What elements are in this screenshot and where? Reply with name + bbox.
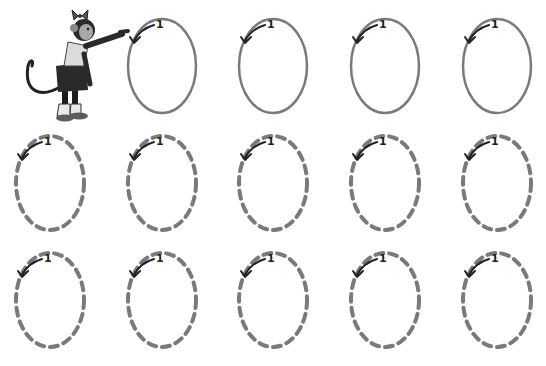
monkey-girl-pointing-icon: [22, 4, 134, 122]
worksheet: 1 1 1 1 1 1 1: [0, 0, 546, 366]
trace-oval-solid: 1: [345, 11, 425, 121]
trace-oval-dashed: 1: [457, 245, 537, 355]
trace-oval-dashed: 1: [10, 245, 90, 355]
stroke-number-label: 1: [156, 253, 164, 264]
trace-oval-dashed: 1: [122, 128, 202, 238]
stroke-number-label: 1: [379, 136, 387, 147]
trace-oval-solid: 1: [233, 11, 313, 121]
stroke-number-label: 1: [379, 19, 387, 30]
stroke-number-label: 1: [491, 136, 499, 147]
trace-oval-dashed: 1: [10, 128, 90, 238]
trace-oval-dashed: 1: [345, 245, 425, 355]
trace-oval-dashed: 1: [233, 245, 313, 355]
trace-oval-solid: 1: [457, 11, 537, 121]
trace-oval-dashed: 1: [122, 245, 202, 355]
stroke-number-label: 1: [491, 19, 499, 30]
stroke-number-label: 1: [267, 19, 275, 30]
trace-oval-dashed: 1: [233, 128, 313, 238]
stroke-number-label: 1: [267, 136, 275, 147]
stroke-number-label: 1: [156, 136, 164, 147]
stroke-number-label: 1: [44, 136, 52, 147]
stroke-number-label: 1: [267, 253, 275, 264]
trace-oval-dashed: 1: [345, 128, 425, 238]
stroke-number-label: 1: [44, 253, 52, 264]
stroke-number-label: 1: [491, 253, 499, 264]
stroke-number-label: 1: [379, 253, 387, 264]
trace-oval-dashed: 1: [457, 128, 537, 238]
trace-oval-solid: 1: [122, 11, 202, 121]
stroke-number-label: 1: [156, 19, 164, 30]
